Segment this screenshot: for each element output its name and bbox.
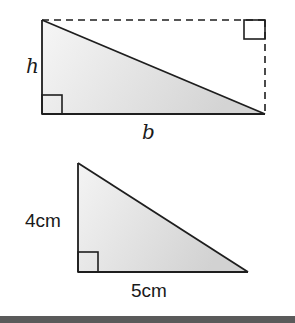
bottom-divider-bar bbox=[0, 316, 295, 323]
label-5cm: 5cm bbox=[131, 280, 167, 301]
right-angle-marker-top-right bbox=[244, 20, 265, 39]
label-h: h bbox=[26, 54, 39, 78]
label-b: b bbox=[142, 120, 155, 144]
diagram-example-triangle: 4cm 5cm bbox=[25, 163, 248, 301]
triangle-area-diagram: h b 4cm 5cm bbox=[0, 0, 295, 323]
diagram-general-triangle: h b bbox=[26, 20, 265, 144]
label-4cm: 4cm bbox=[25, 210, 61, 231]
